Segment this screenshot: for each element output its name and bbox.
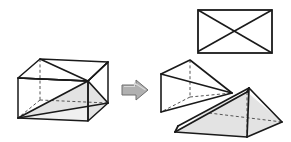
figure-container xyxy=(0,0,291,142)
geometry-diagram xyxy=(0,0,291,142)
rectangle-cross-section xyxy=(198,10,272,53)
